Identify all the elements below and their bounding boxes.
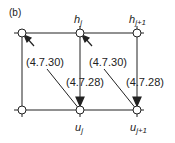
arrowhead-down-right-icon <box>133 97 141 106</box>
grid-diagram: (b) hj hj+1 uj uj+1 (4.7.30) (4.7.30) (4… <box>0 0 175 143</box>
node-bottom-left <box>18 106 26 114</box>
eq-label-4-7-28-right: (4.7.28) <box>126 76 164 88</box>
eq-label-4-7-30-right: (4.7.30) <box>89 56 127 68</box>
label-u-j-plus-1: uj+1 <box>130 121 147 135</box>
node-top-left <box>18 29 26 37</box>
eq-label-4-7-28-left: (4.7.28) <box>66 76 104 88</box>
eq-label-4-7-30-left: (4.7.30) <box>26 56 64 68</box>
arrowhead-down-middle-icon <box>76 97 84 106</box>
label-u-j: uj <box>75 121 83 135</box>
node-h-j <box>76 29 84 37</box>
label-h-j: hj <box>74 13 82 27</box>
node-u-j-plus-1 <box>133 106 141 114</box>
node-u-j <box>76 106 84 114</box>
label-h-j-plus-1: hj+1 <box>129 13 146 27</box>
panel-label: (b) <box>9 7 21 18</box>
node-h-j-plus-1 <box>133 29 141 37</box>
